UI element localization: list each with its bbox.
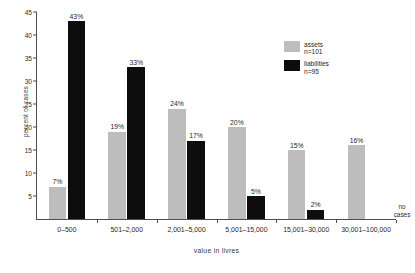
y-axis-tick-label: 45 [14, 9, 32, 16]
x-axis-tick-label: 30,001–100,000 [341, 226, 391, 233]
bar-assets-2[interactable] [108, 132, 126, 219]
y-axis-tick-mark [33, 104, 37, 105]
bar-slot-liabilities: 17% [187, 12, 205, 219]
y-axis-tick-mark [33, 173, 37, 174]
x-axis-tick-mark [276, 220, 277, 224]
y-axis-tick-label: 5 [14, 193, 32, 200]
legend-entry-assets[interactable]: assetsn=101 [284, 41, 329, 55]
legend-label-assets: assets [304, 41, 323, 48]
bar-liabilities-4[interactable] [247, 196, 265, 219]
no-cases-line-2: cases [385, 211, 415, 219]
x-axis-tick-labels: 0–500501–2,0002,001–5,0005,001–15,00015,… [37, 226, 396, 238]
bar-group: 7%43% [37, 12, 97, 219]
y-axis-tick-label: 40 [14, 32, 32, 39]
bar-value-label: 33% [119, 59, 154, 66]
y-axis-tick-mark [33, 12, 37, 13]
x-axis-tick-label: 5,001–15,000 [225, 226, 267, 233]
bar-assets-1[interactable] [49, 187, 67, 219]
bar-group: 20%5% [217, 12, 277, 219]
bar-slot-liabilities: 33% [127, 12, 145, 219]
bar-slot-assets: 24% [168, 12, 186, 219]
bar-group: 19%33% [97, 12, 157, 219]
bar-liabilities-3[interactable] [187, 141, 205, 219]
legend-text-liabilities: liabilitiesn=95 [304, 60, 329, 74]
y-axis-tick-label: 20 [14, 124, 32, 131]
bar-liabilities-2[interactable] [127, 67, 145, 219]
x-axis-tick-label: 2,001–5,000 [167, 226, 205, 233]
x-axis-tick-mark [157, 220, 158, 224]
x-axis-tick-mark [97, 220, 98, 224]
no-cases-line-1: no [385, 203, 415, 211]
legend-swatch-liabilities [284, 60, 300, 71]
y-axis-tick-label: 25 [14, 101, 32, 108]
y-axis-tick-label: 10 [14, 170, 32, 177]
x-axis-tick-mark [336, 220, 337, 224]
bar-value-label: 17% [179, 132, 214, 139]
y-axis-tick-label: 30 [14, 78, 32, 85]
y-axis-tick-mark [33, 81, 37, 82]
bar-slot-liabilities: nocases [367, 12, 385, 219]
bar-slot-liabilities: 5% [247, 12, 265, 219]
bar-value-label: 2% [298, 201, 333, 208]
bar-liabilities-5[interactable] [307, 210, 325, 219]
chart-legend: assetsn=101liabilitiesn=95 [284, 41, 329, 80]
bar-group: 24%17% [157, 12, 217, 219]
bar-assets-5[interactable] [288, 150, 306, 219]
bar-slot-liabilities: 43% [68, 12, 86, 219]
y-axis-tick-label: 35 [14, 55, 32, 62]
bar-slot-assets: 7% [49, 12, 67, 219]
no-cases-annotation: nocases [385, 203, 415, 219]
x-axis-tick-mark [396, 220, 397, 224]
bar-slot-assets: 19% [108, 12, 126, 219]
legend-count-liabilities: n=95 [304, 68, 329, 75]
y-axis-tick-mark [33, 35, 37, 36]
x-axis-tick-label: 15,001–30,000 [283, 226, 329, 233]
bar-slot-assets: 16% [348, 12, 366, 219]
bar-liabilities-1[interactable] [68, 21, 86, 219]
x-axis-tick-mark [217, 220, 218, 224]
legend-label-liabilities: liabilities [304, 60, 329, 67]
y-axis-tick-mark [33, 150, 37, 151]
y-axis-tick-labels: 51015202530354045 [14, 12, 32, 220]
y-axis-tick-label: 15 [14, 147, 32, 154]
x-axis-tick-label: 501–2,000 [110, 226, 143, 233]
x-axis-tick-label: 0–500 [57, 226, 76, 233]
legend-text-assets: assetsn=101 [304, 41, 323, 55]
bar-group: 16%nocases [336, 12, 396, 219]
y-axis-tick-mark [33, 58, 37, 59]
bar-assets-3[interactable] [168, 109, 186, 219]
bar-assets-6[interactable] [348, 145, 366, 219]
bar-value-label: 5% [238, 188, 273, 195]
bar-value-label: 43% [59, 13, 94, 20]
y-axis-tick-mark [33, 196, 37, 197]
y-axis-tick-mark [33, 127, 37, 128]
bar-assets-4[interactable] [228, 127, 246, 219]
legend-count-assets: n=101 [304, 48, 323, 55]
plot-area: 7%43%19%33%24%17%20%5%15%2%16%nocases [37, 12, 396, 219]
x-axis-title: value in livres [37, 247, 396, 254]
legend-swatch-assets [284, 41, 300, 52]
legend-entry-liabilities[interactable]: liabilitiesn=95 [284, 60, 329, 74]
